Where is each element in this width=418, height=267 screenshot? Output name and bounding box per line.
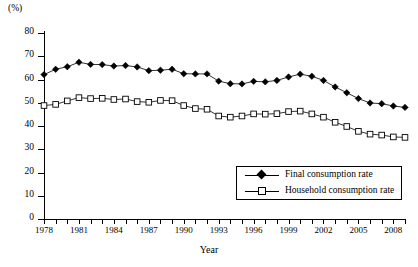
- filled-diamond-marker-icon: [52, 66, 58, 72]
- filled-diamond-marker-icon: [64, 64, 70, 70]
- open-square-marker-icon: [88, 96, 94, 102]
- filled-diamond-marker-icon: [379, 100, 385, 106]
- filled-diamond-marker-icon: [192, 71, 198, 77]
- open-square-marker-icon: [391, 134, 397, 140]
- filled-diamond-marker-icon: [250, 78, 256, 84]
- filled-diamond-marker-icon: [181, 70, 187, 76]
- open-square-marker-icon: [332, 119, 338, 125]
- filled-diamond-marker-icon: [122, 62, 128, 68]
- open-square-marker-icon: [158, 98, 164, 104]
- open-square-marker-icon: [379, 132, 385, 138]
- open-square-marker-icon: [286, 109, 292, 115]
- filled-diamond-marker-icon: [320, 77, 326, 83]
- filled-diamond-marker-icon: [355, 95, 361, 101]
- filled-diamond-marker-icon: [215, 78, 221, 84]
- open-square-marker-icon: [321, 114, 327, 120]
- open-square-marker-icon: [297, 108, 303, 114]
- open-square-marker-icon: [344, 124, 350, 130]
- filled-diamond-marker-icon: [274, 77, 280, 83]
- open-square-marker-icon: [216, 113, 222, 119]
- series-line: [44, 98, 405, 138]
- series-plot-layer: [0, 0, 418, 267]
- open-square-marker-icon: [262, 111, 268, 117]
- filled-diamond-marker-icon: [204, 71, 210, 77]
- filled-diamond-marker-icon: [111, 63, 117, 69]
- open-square-marker-icon: [134, 99, 140, 105]
- legend-label: Household consumption rate: [285, 185, 394, 197]
- open-square-marker-icon: [193, 106, 199, 112]
- filled-diamond-marker-icon: [76, 59, 82, 65]
- filled-diamond-marker-icon: [262, 79, 268, 85]
- filled-diamond-marker-icon: [169, 66, 175, 72]
- x-axis-title: Year: [0, 244, 418, 255]
- open-square-marker-icon: [123, 96, 129, 102]
- open-square-marker-icon: [146, 99, 152, 105]
- filled-diamond-marker-icon: [87, 61, 93, 67]
- filled-diamond-marker-icon: [332, 84, 338, 90]
- chart-legend: Final consumption rate Household consump…: [236, 166, 402, 200]
- filled-diamond-marker-icon: [367, 100, 373, 106]
- filled-diamond-marker-icon: [41, 71, 47, 77]
- filled-diamond-marker-icon: [390, 103, 396, 109]
- open-square-marker-icon: [251, 111, 257, 117]
- open-square-marker-icon: [169, 98, 175, 104]
- filled-diamond-marker-icon: [157, 67, 163, 73]
- open-square-marker-icon: [239, 113, 245, 119]
- consumption-rate-line-chart: (%) 80706050403020100 197819811984198719…: [0, 0, 418, 267]
- filled-diamond-marker-icon: [297, 71, 303, 77]
- filled-diamond-marker-icon: [402, 104, 408, 110]
- open-square-marker-icon: [228, 114, 234, 120]
- open-square-marker-icon: [204, 106, 210, 112]
- filled-diamond-marker-icon: [134, 64, 140, 70]
- open-square-marker-icon: [367, 131, 373, 137]
- legend-item-household-consumption-rate: Household consumption rate: [237, 183, 403, 200]
- filled-diamond-marker-icon: [285, 74, 291, 80]
- filled-diamond-marker-icon: [309, 73, 315, 79]
- open-square-marker-icon: [64, 98, 70, 104]
- open-square-marker-icon: [402, 135, 408, 141]
- open-square-marker-icon: [258, 187, 266, 195]
- open-square-marker-icon: [76, 95, 82, 101]
- open-square-marker-icon: [111, 97, 117, 103]
- open-square-marker-icon: [274, 111, 280, 117]
- series-line: [44, 62, 405, 107]
- legend-item-final-consumption-rate: Final consumption rate: [237, 167, 403, 184]
- open-square-marker-icon: [41, 103, 47, 109]
- open-square-marker-icon: [53, 102, 59, 108]
- open-square-marker-icon: [99, 96, 105, 102]
- filled-diamond-marker-icon: [146, 67, 152, 73]
- filled-diamond-marker-icon: [257, 170, 267, 180]
- filled-diamond-marker-icon: [227, 80, 233, 86]
- filled-diamond-marker-icon: [99, 61, 105, 67]
- filled-diamond-marker-icon: [239, 81, 245, 87]
- open-square-marker-icon: [181, 103, 187, 109]
- open-square-marker-icon: [309, 111, 315, 117]
- open-square-marker-icon: [356, 129, 362, 135]
- filled-diamond-marker-icon: [344, 90, 350, 96]
- legend-label: Final consumption rate: [285, 169, 373, 181]
